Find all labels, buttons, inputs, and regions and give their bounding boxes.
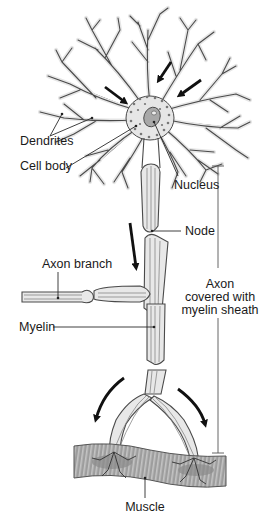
label-muscle: Muscle <box>125 500 165 514</box>
nucleolus <box>152 111 157 115</box>
arrow-icon <box>180 80 201 95</box>
label-dendrites: Dendrites <box>20 134 74 148</box>
neuron-diagram: Dendrites Cell body Nucleus Node Axon br… <box>0 0 268 525</box>
neuron-illustration: Dendrites Cell body Nucleus Node Axon br… <box>0 0 268 525</box>
curved-arrow-icon <box>96 378 124 419</box>
label-myelin: Myelin <box>19 320 55 334</box>
myelinated-axon <box>22 164 198 458</box>
arrow-icon <box>159 62 171 80</box>
label-cell-body: Cell body <box>20 159 73 173</box>
label-axon-branch: Axon branch <box>42 257 112 271</box>
label-node: Node <box>185 224 215 238</box>
muscle-fiber <box>74 444 226 487</box>
label-axon-line2: covered with <box>185 290 255 304</box>
label-axon-line3: myelin sheath <box>181 303 258 317</box>
arrow-icon <box>130 223 136 267</box>
label-axon-line1: Axon <box>206 277 235 291</box>
label-nucleus: Nucleus <box>174 178 219 192</box>
